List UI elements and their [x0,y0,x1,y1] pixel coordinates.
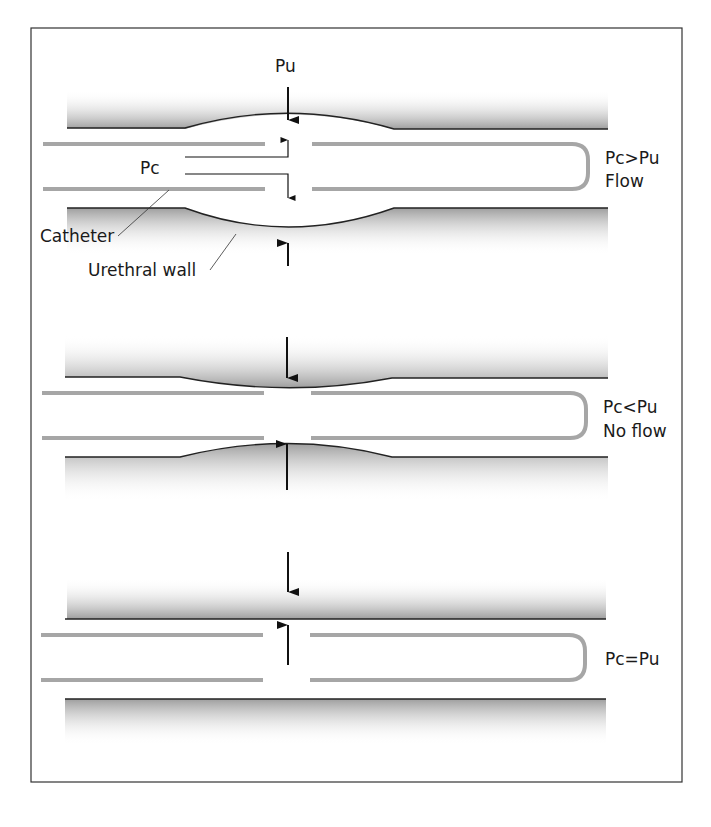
condition-label: Pc>Pu [605,148,660,168]
pu-label: Pu [275,56,296,76]
panel-pc-equal: Pc=Pu [41,552,660,745]
urethral-wall-top [67,90,608,129]
urethral-wall-bottom [67,208,608,255]
catheter [43,144,588,189]
urethral-wall-callout: Urethral wall [88,260,196,280]
catheter-callout: Catheter [40,226,114,246]
outcome-label: No flow [603,421,667,441]
catheter [41,635,585,680]
catheter [42,393,586,438]
panel-pc-greater: Pu Pc Catheter Urethral wall Pc>Pu Flow [40,56,660,280]
pc-label: Pc [140,158,160,178]
urethral-wall-bottom [65,699,606,745]
urethral-wall-top [65,335,608,388]
condition-label: Pc=Pu [605,649,660,669]
urethral-wall-top [67,578,606,619]
urethral-pressure-diagram: Pu Pc Catheter Urethral wall Pc>Pu Flow … [0,0,711,827]
outcome-label: Flow [605,171,644,191]
condition-label: Pc<Pu [603,397,658,417]
pc-arrow-down [185,174,288,198]
urethral-wall-bottom [65,444,608,503]
panel-pc-less: Pc<Pu No flow [42,335,667,502]
